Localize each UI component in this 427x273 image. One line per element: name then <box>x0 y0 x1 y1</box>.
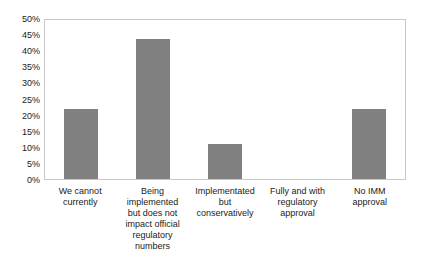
y-axis: 50%45%40%35%30%25%20%15%10%5%0% <box>0 19 40 180</box>
plot-area <box>44 19 406 180</box>
x-axis-category-label: No IMM approval <box>334 186 406 208</box>
y-axis-tick-label: 40% <box>0 47 40 56</box>
y-axis-tick-label: 5% <box>0 159 40 168</box>
y-axis-tick-label: 20% <box>0 111 40 120</box>
x-axis-category-label: Being implemented but does not impact of… <box>116 186 188 252</box>
x-axis-category-label: We cannot currently <box>44 186 116 208</box>
bar-slot <box>333 20 405 179</box>
bar[interactable] <box>352 109 386 179</box>
bars-layer <box>45 20 405 179</box>
bar[interactable] <box>64 109 98 179</box>
bar-slot <box>117 20 189 179</box>
x-axis-category-label: Implementated but conservatively <box>189 186 261 219</box>
y-axis-tick-label: 30% <box>0 79 40 88</box>
y-axis-tick-label: 35% <box>0 63 40 72</box>
x-axis: We cannot currentlyBeing implemented but… <box>44 186 406 252</box>
y-axis-tick-label: 25% <box>0 95 40 104</box>
y-axis-tick-label: 50% <box>0 15 40 24</box>
y-axis-tick-label: 10% <box>0 143 40 152</box>
bar-slot <box>45 20 117 179</box>
bar[interactable] <box>208 144 242 179</box>
bar-chart: 50%45%40%35%30%25%20%15%10%5%0% We canno… <box>0 0 427 273</box>
y-axis-tick-label: 0% <box>0 176 40 185</box>
bar[interactable] <box>136 39 170 179</box>
y-axis-tick-label: 45% <box>0 31 40 40</box>
bar-slot <box>261 20 333 179</box>
x-axis-category-label: Fully and with regulatory approval <box>261 186 333 219</box>
y-axis-tick-label: 15% <box>0 127 40 136</box>
bar-slot <box>189 20 261 179</box>
